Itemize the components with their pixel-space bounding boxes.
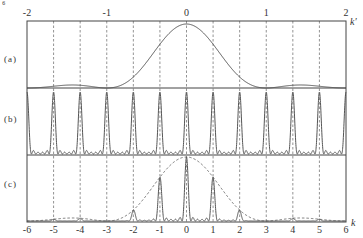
bottom-tick-label: 6 — [344, 224, 349, 235]
bottom-tick-label: -4 — [76, 224, 84, 235]
panel-label-b: (b) — [4, 114, 18, 124]
bottom-tick-label: 1 — [211, 224, 216, 235]
bottom-tick-label: -3 — [103, 224, 111, 235]
bottom-tick-label: 5 — [317, 224, 322, 235]
top-axis-ticks: -2-1012 — [23, 7, 349, 18]
bottom-tick-label: -5 — [49, 224, 57, 235]
top-tick-label: -1 — [103, 7, 111, 18]
diffraction-envelope-curve — [27, 24, 346, 88]
bottom-tick-label: -2 — [129, 224, 137, 235]
top-tick-label: -2 — [23, 7, 31, 18]
grid-lines — [54, 21, 320, 222]
bottom-tick-label: -6 — [23, 224, 31, 235]
bottom-tick-label: 2 — [237, 224, 242, 235]
corner-label: ⁶ — [2, 0, 6, 10]
bottom-tick-label: -1 — [156, 224, 164, 235]
top-axis-name: k′ — [350, 16, 357, 27]
panel-label-c: (c) — [4, 179, 17, 189]
top-tick-label: 1 — [264, 7, 269, 18]
bottom-tick-label: 0 — [184, 224, 189, 235]
panel-label-a: (a) — [4, 54, 17, 64]
top-tick-label: 0 — [184, 7, 189, 18]
diffraction-figure: ⁶ -2-1012 k′ -6-5-4-3-2-10123456 k (a) (… — [0, 0, 363, 238]
top-tick-label: 2 — [344, 7, 349, 18]
bottom-tick-label: 3 — [264, 224, 269, 235]
bottom-axis-name: k — [351, 217, 356, 228]
bottom-tick-label: 4 — [290, 224, 295, 235]
bottom-axis-ticks: -6-5-4-3-2-10123456 — [23, 224, 349, 235]
